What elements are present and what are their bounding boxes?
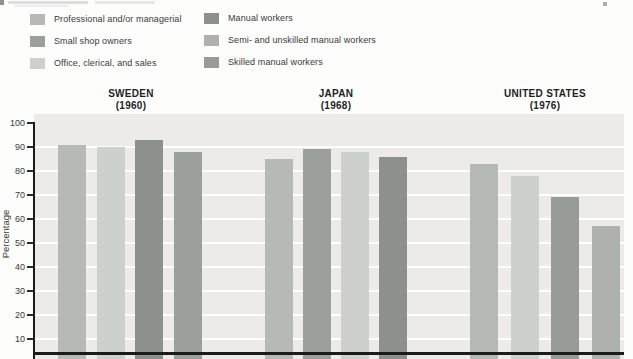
bar-sweden-professional (58, 145, 86, 359)
legend-label-small-shop-owners: Small shop owners (54, 36, 132, 47)
group-title-sweden: SWEDEN (1960) (56, 88, 206, 112)
group-title-united-states: UNITED STATES (1976) (470, 88, 620, 112)
legend-label-semi-unskilled: Semi- and unskilled manual workers (228, 35, 376, 46)
scan-artifact (603, 2, 607, 6)
y-tick-mark-100 (27, 122, 33, 124)
y-tick-label-30: 30 (0, 286, 25, 296)
legend-swatch-small-shop-owners (30, 36, 45, 47)
group-title-united-states-year: (1976) (470, 100, 620, 112)
y-tick-label-50: 50 (0, 238, 25, 248)
legend-item-professional: Professional and/or managerial (30, 14, 182, 25)
bar-japan-office (341, 152, 369, 359)
bar-sweden-office (97, 147, 125, 359)
y-tick-mark-40 (27, 266, 33, 268)
bar-united-states-office (511, 176, 539, 359)
group-title-japan: JAPAN (1968) (261, 88, 411, 112)
group-title-united-states-name: UNITED STATES (470, 88, 620, 100)
legend-label-manual-workers: Manual workers (228, 13, 293, 24)
y-tick-label-40: 40 (0, 262, 25, 272)
y-tick-label-90: 90 (0, 142, 25, 152)
y-tick-mark-80 (27, 170, 33, 172)
legend-item-small-shop-owners: Small shop owners (30, 36, 182, 47)
y-tick-mark-20 (27, 314, 33, 316)
legend-label-professional: Professional and/or managerial (54, 14, 182, 25)
legend-item-skilled-manual: Skilled manual workers (204, 57, 376, 68)
bar-japan-manual (379, 157, 407, 359)
scan-artifact (0, 0, 4, 5)
legend-column-right: Manual workers Semi- and unskilled manua… (204, 13, 376, 79)
y-tick-mark-10 (27, 338, 33, 340)
y-tick-label-80: 80 (0, 166, 25, 176)
plot-area (34, 114, 624, 359)
legend-item-semi-unskilled: Semi- and unskilled manual workers (204, 35, 376, 46)
bar-united-states-professional (470, 164, 498, 359)
y-tick-label-60: 60 (0, 214, 25, 224)
bar-sweden-manual (135, 140, 163, 359)
bar-united-states-skilled (551, 197, 579, 359)
bar-united-states-semi-unskilled (592, 226, 620, 359)
legend-item-manual-workers: Manual workers (204, 13, 376, 24)
legend-swatch-office-clerical-sales (30, 58, 45, 69)
legend-swatch-professional (30, 14, 45, 25)
y-tick-mark-60 (27, 218, 33, 220)
legend-swatch-manual-workers (204, 13, 219, 24)
y-tick-label-20: 20 (0, 310, 25, 320)
x-axis-baseline (34, 352, 624, 355)
legend-swatch-semi-unskilled (204, 35, 219, 46)
group-title-sweden-name: SWEDEN (56, 88, 206, 100)
y-axis-line (33, 122, 35, 359)
y-axis-title: Percentage (0, 202, 12, 266)
group-title-sweden-year: (1960) (56, 100, 206, 112)
y-tick-mark-90 (27, 146, 33, 148)
figure-canvas: Professional and/or managerial Small sho… (0, 0, 633, 359)
y-tick-label-70: 70 (0, 190, 25, 200)
y-tick-label-100: 100 (0, 118, 25, 128)
scan-artifact (14, 5, 69, 7)
legend-label-office-clerical-sales: Office, clerical, and sales (54, 58, 157, 69)
legend-item-office-clerical-sales: Office, clerical, and sales (30, 58, 182, 69)
group-title-japan-name: JAPAN (261, 88, 411, 100)
scan-artifact (95, 1, 155, 4)
y-tick-mark-50 (27, 242, 33, 244)
group-title-japan-year: (1968) (261, 100, 411, 112)
y-tick-mark-70 (27, 194, 33, 196)
legend-label-skilled-manual: Skilled manual workers (228, 57, 323, 68)
legend-column-left: Professional and/or managerial Small sho… (30, 14, 182, 80)
y-tick-label-10: 10 (0, 334, 25, 344)
legend-swatch-skilled-manual (204, 57, 219, 68)
bar-japan-small-shop (303, 149, 331, 359)
bar-sweden-small-shop (174, 152, 202, 359)
y-tick-mark-30 (27, 290, 33, 292)
bar-japan-professional (265, 159, 293, 359)
scan-artifact (8, 1, 88, 4)
